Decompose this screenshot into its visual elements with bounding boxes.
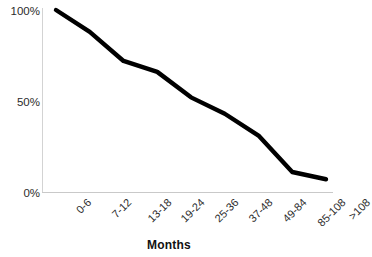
y-tick-label-0: 0% (2, 187, 40, 199)
x-tick-label-8: >108 (346, 196, 372, 222)
y-tick-label-50: 50% (2, 96, 40, 108)
x-tick-label-1: 7-12 (109, 196, 133, 220)
x-axis-tick-labels: 0-67-1213-1819-2425-3637-4849-8485-108>1… (42, 192, 333, 238)
x-tick-label-3: 19-24 (178, 196, 206, 224)
x-tick-label-7: 85-108 (315, 196, 348, 229)
y-axis-tick-labels: 100% 50% 0% (0, 0, 40, 200)
plot-area (42, 10, 332, 192)
x-tick-label-4: 25-36 (212, 196, 240, 224)
x-axis-title: Months (0, 238, 338, 252)
y-tick-label-100: 100% (2, 5, 40, 17)
x-tick-label-2: 13-18 (145, 196, 173, 224)
x-tick-label-0: 0-6 (74, 196, 94, 216)
x-tick-label-6: 49-84 (280, 196, 308, 224)
data-line-svg (42, 10, 332, 192)
data-series-line (56, 10, 326, 179)
x-tick-label-5: 37-48 (246, 196, 274, 224)
